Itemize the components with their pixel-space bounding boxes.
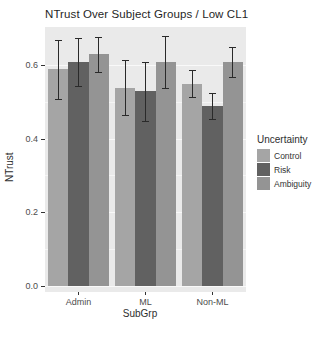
errorbar-non-ml-control-cap-top [189,70,196,71]
legend-key-control-swatch [257,149,270,162]
errorbar-admin-risk [78,38,79,86]
errorbar-non-ml-risk-cap-bottom [209,119,216,120]
errorbar-ml-ambiguity [165,36,166,88]
errorbar-non-ml-risk [212,93,213,119]
bar-ml-ambiguity [156,62,176,286]
legend-title: Uncertainty [257,134,323,145]
errorbar-admin-ambiguity [98,37,99,72]
errorbar-non-ml-ambiguity [232,47,233,76]
x-axis-tick [78,292,79,295]
bar-admin-ambiguity [89,54,109,286]
plot-title: NTrust Over Subject Groups / Low CL1 [45,8,246,20]
y-axis-tick [41,65,45,66]
errorbar-admin-risk-cap-bottom [75,86,82,87]
x-tick-label-non-ml: Non-ML [182,297,243,307]
y-axis-tick [41,212,45,213]
x-tick-label-admin: Admin [48,297,109,307]
bar-non-ml-risk [202,106,222,286]
legend: Uncertainty Control Risk Ambiguity [257,134,323,191]
errorbar-admin-ambiguity-cap-bottom [95,72,102,73]
errorbar-ml-control-cap-top [122,60,129,61]
x-axis-tick [145,292,146,295]
errorbar-non-ml-ambiguity-cap-top [229,47,236,48]
legend-label-ambiguity: Ambiguity [274,179,311,189]
errorbar-ml-risk [145,62,146,121]
legend-item-risk: Risk [257,163,323,176]
bar-non-ml-control [182,84,202,286]
y-tick-label-0.2: 0.2 [0,207,38,217]
errorbar-admin-control-cap-top [55,40,62,41]
errorbar-ml-control [125,60,126,115]
bar-admin-risk [68,62,88,286]
errorbar-admin-control [58,40,59,99]
x-axis-title: SubGrp [40,308,240,319]
legend-label-risk: Risk [274,165,291,175]
legend-key-risk-swatch [257,163,270,176]
errorbar-ml-risk-cap-top [142,62,149,63]
legend-item-ambiguity: Ambiguity [257,177,323,190]
errorbar-admin-control-cap-bottom [55,99,62,100]
errorbar-non-ml-risk-cap-top [209,93,216,94]
errorbar-ml-risk-cap-bottom [142,121,149,122]
chart: NTrust Over Subject Groups / Low CL1 NTr… [0,0,323,340]
legend-label-control: Control [274,151,301,161]
y-tick-label-0.4: 0.4 [0,134,38,144]
y-axis-tick [41,286,45,287]
bar-non-ml-ambiguity [223,62,243,286]
y-tick-label-0.0: 0.0 [0,281,38,291]
errorbar-non-ml-control-cap-bottom [189,97,196,98]
errorbar-non-ml-ambiguity-cap-bottom [229,77,236,78]
x-axis-tick [212,292,213,295]
errorbar-admin-ambiguity-cap-top [95,37,102,38]
y-axis-tick [41,139,45,140]
bar-admin-control [48,69,68,286]
y-tick-label-0.6: 0.6 [0,60,38,70]
x-tick-label-ml: ML [115,297,176,307]
errorbar-ml-ambiguity-cap-bottom [162,88,169,89]
y-axis-title: NTrust [4,141,16,193]
errorbar-ml-control-cap-bottom [122,115,129,116]
plot-panel [45,27,246,292]
legend-key-ambiguity-swatch [257,177,270,190]
errorbar-admin-risk-cap-top [75,38,82,39]
errorbar-non-ml-control [192,70,193,97]
legend-item-control: Control [257,149,323,162]
bar-ml-control [115,88,135,286]
errorbar-ml-ambiguity-cap-top [162,36,169,37]
